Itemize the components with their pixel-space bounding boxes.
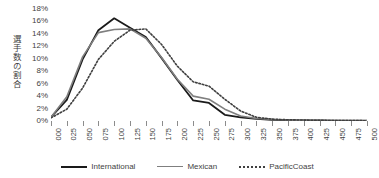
chart-legend: InternationalMexicanPacificCoast bbox=[0, 159, 375, 173]
x-axis-tick-mark bbox=[193, 121, 194, 126]
y-axis-tick-label: 4% bbox=[36, 92, 48, 100]
x-axis-tick-mark bbox=[162, 121, 163, 126]
x-axis-tick-label: 500 bbox=[371, 128, 379, 141]
x-axis-tick-label: 100 bbox=[118, 128, 126, 141]
x-axis-tick-label: 150 bbox=[149, 128, 157, 141]
x-axis-tick-mark bbox=[130, 121, 131, 126]
x-axis-tick-label: 400 bbox=[307, 128, 315, 141]
legend-item-international[interactable]: International bbox=[61, 162, 135, 171]
x-axis: 0000250500751001251501752002252502753003… bbox=[51, 121, 367, 157]
legend-swatch-icon bbox=[61, 162, 87, 171]
x-axis-tick-mark bbox=[256, 121, 257, 126]
x-axis-tick-mark bbox=[67, 121, 68, 126]
x-axis-tick-label: 075 bbox=[102, 128, 110, 141]
y-axis-tick-label: 16% bbox=[32, 17, 48, 25]
x-axis-tick-mark bbox=[351, 121, 352, 126]
y-axis-tick-label: 2% bbox=[36, 105, 48, 113]
y-axis-tick-label: 10% bbox=[32, 55, 48, 63]
x-axis-tick-mark bbox=[320, 121, 321, 126]
x-axis-tick-mark bbox=[367, 121, 368, 126]
x-axis-tick-label: 325 bbox=[260, 128, 268, 141]
x-axis-tick-label: 475 bbox=[355, 128, 363, 141]
x-axis-tick-label: 175 bbox=[165, 128, 173, 141]
y-axis-tick-labels: 0%2%4%6%8%10%12%14%16%18% bbox=[22, 0, 48, 124]
y-axis-tick-label: 14% bbox=[32, 30, 48, 38]
legend-label: Mexican bbox=[187, 162, 217, 171]
x-axis-tick-mark bbox=[209, 121, 210, 126]
x-axis-tick-label: 000 bbox=[55, 128, 63, 141]
x-axis-tick-label: 425 bbox=[323, 128, 331, 141]
x-axis-tick-label: 225 bbox=[197, 128, 205, 141]
series-line-pacificcoast bbox=[51, 29, 367, 121]
x-axis-tick-mark bbox=[241, 121, 242, 126]
x-axis-tick-mark bbox=[98, 121, 99, 126]
x-axis-tick-mark bbox=[304, 121, 305, 126]
y-axis-tick-label: 6% bbox=[36, 80, 48, 88]
x-axis-tick-mark bbox=[288, 121, 289, 126]
x-axis-tick-mark bbox=[225, 121, 226, 126]
x-axis-tick-label: 300 bbox=[244, 128, 252, 141]
x-axis-tick-mark bbox=[335, 121, 336, 126]
plot-svg bbox=[51, 9, 367, 121]
legend-swatch-icon bbox=[239, 162, 265, 171]
x-axis-tick-label: 200 bbox=[181, 128, 189, 141]
x-axis-tick-mark bbox=[177, 121, 178, 126]
x-axis-tick-label: 025 bbox=[70, 128, 78, 141]
plot-area bbox=[51, 9, 367, 121]
x-axis-tick-label: 350 bbox=[276, 128, 284, 141]
series-line-mexican bbox=[51, 29, 367, 121]
x-axis-tick-label: 050 bbox=[86, 128, 94, 141]
y-axis-tick-label: 8% bbox=[36, 67, 48, 75]
y-axis-title: 選手数の割合 bbox=[6, 22, 20, 102]
x-axis-tick-mark bbox=[146, 121, 147, 126]
y-axis-tick-label: 12% bbox=[32, 42, 48, 50]
x-axis-tick-label: 450 bbox=[339, 128, 347, 141]
x-axis-tick-label: 125 bbox=[134, 128, 142, 141]
legend-label: PacificCoast bbox=[269, 162, 313, 171]
legend-label: International bbox=[91, 162, 135, 171]
x-axis-tick-label: 275 bbox=[228, 128, 236, 141]
legend-item-mexican[interactable]: Mexican bbox=[157, 162, 217, 171]
x-axis-tick-mark bbox=[51, 121, 52, 126]
y-axis-tick-label: 18% bbox=[32, 5, 48, 13]
y-axis-tick-label: 0% bbox=[36, 117, 48, 125]
x-axis-tick-label: 250 bbox=[213, 128, 221, 141]
x-axis-tick-mark bbox=[83, 121, 84, 126]
x-axis-tick-mark bbox=[272, 121, 273, 126]
x-axis-tick-label: 375 bbox=[292, 128, 300, 141]
legend-item-pacificcoast[interactable]: PacificCoast bbox=[239, 162, 313, 171]
x-axis-tick-mark bbox=[114, 121, 115, 126]
legend-swatch-icon bbox=[157, 162, 183, 171]
